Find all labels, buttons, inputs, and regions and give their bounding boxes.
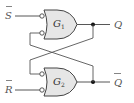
inverter-bubble-icon [40, 14, 44, 18]
gate-g2: G2 [40, 68, 77, 96]
inverter-bubble-icon [40, 72, 44, 76]
input-s-label: S [5, 10, 12, 21]
output-q: Q [77, 19, 122, 30]
inverter-bubble-icon [40, 31, 44, 35]
output-q-label: Q [114, 19, 122, 30]
input-r-bar: R [4, 81, 40, 96]
input-r-label: R [4, 84, 13, 95]
sr-latch-diagram: S G1 Q G2 R Q [0, 0, 134, 103]
inverter-bubble-icon [40, 88, 44, 92]
input-s-bar: S [5, 7, 40, 22]
output-q-bar-label: Q [114, 77, 122, 88]
output-q-bar: Q [77, 74, 122, 89]
gate-g1: G1 [40, 10, 77, 39]
